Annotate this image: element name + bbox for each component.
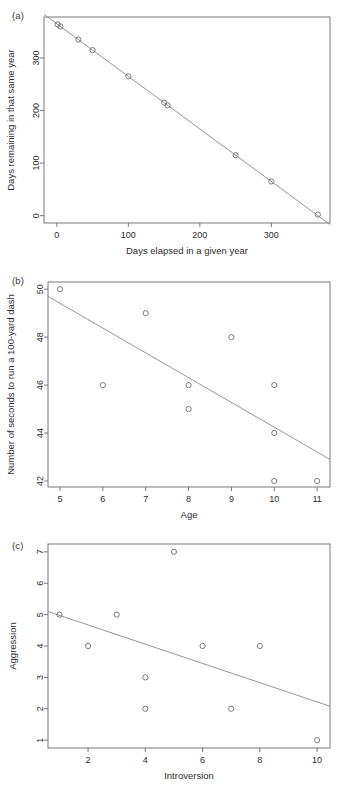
- x-tick-label: 8: [257, 755, 262, 765]
- y-tick-label: 5: [35, 612, 45, 617]
- y-tick-label: 48: [35, 332, 45, 342]
- x-tick-label: 8: [186, 494, 191, 504]
- y-tick-label: 7: [35, 549, 45, 554]
- data-point: [315, 478, 320, 483]
- data-point: [143, 706, 148, 711]
- panel-b-dash-times: (b) 5678910114244464850AgeNumber of seco…: [0, 265, 340, 530]
- y-tick-label: 44: [35, 428, 45, 438]
- scatter-plot-a: 01002003000100200300Days elapsed in a gi…: [0, 0, 340, 265]
- x-tick-label: 4: [143, 755, 148, 765]
- regression-line: [44, 14, 330, 224]
- panel-a-days-remaining: (a) 01002003000100200300Days elapsed in …: [0, 0, 340, 265]
- data-point: [272, 478, 277, 483]
- x-tick-label: 6: [100, 494, 105, 504]
- x-tick-label: 10: [312, 755, 322, 765]
- y-tick-label: 50: [35, 284, 45, 294]
- y-tick-label: 0: [31, 213, 41, 218]
- x-tick-label: 10: [269, 494, 279, 504]
- x-tick-label: 0: [54, 230, 59, 240]
- x-tick-label: 6: [200, 755, 205, 765]
- data-point: [257, 643, 262, 648]
- regression-line: [48, 296, 330, 459]
- x-tick-label: 300: [264, 230, 279, 240]
- x-tick-label: 11: [312, 494, 321, 504]
- data-point: [315, 738, 320, 743]
- data-point: [57, 287, 62, 292]
- data-point: [186, 406, 191, 411]
- x-tick-label: 100: [121, 230, 136, 240]
- data-point: [85, 643, 90, 648]
- data-point: [272, 382, 277, 387]
- x-tick-label: 2: [86, 755, 91, 765]
- x-axis-title: Age: [181, 509, 198, 520]
- data-point: [143, 311, 148, 316]
- data-point: [200, 643, 205, 648]
- y-axis-title: Days remaining in that same year: [5, 49, 16, 191]
- data-point: [272, 430, 277, 435]
- scatter-plot-c: 2468101234567IntroversionAggression: [0, 530, 340, 795]
- figure-three-scatterplots: (a) 01002003000100200300Days elapsed in …: [0, 0, 340, 795]
- x-tick-label: 9: [229, 494, 234, 504]
- y-tick-label: 1: [35, 738, 45, 743]
- y-tick-label: 100: [31, 156, 41, 171]
- scatter-plot-b: 5678910114244464850AgeNumber of seconds …: [0, 265, 340, 530]
- data-point: [229, 706, 234, 711]
- regression-line: [48, 611, 330, 706]
- y-axis-title: Number of seconds to run a 100-yard dash: [5, 294, 16, 475]
- y-tick-label: 200: [31, 103, 41, 118]
- y-tick-label: 3: [35, 675, 45, 680]
- y-tick-label: 2: [35, 706, 45, 711]
- x-axis-title: Days elapsed in a given year: [126, 245, 248, 256]
- x-tick-label: 200: [192, 230, 207, 240]
- data-point: [143, 675, 148, 680]
- y-axis-title: Aggression: [7, 622, 18, 670]
- data-point: [100, 382, 105, 387]
- y-tick-label: 6: [35, 581, 45, 586]
- x-tick-label: 7: [143, 494, 148, 504]
- y-tick-label: 46: [35, 380, 45, 390]
- y-tick-label: 300: [31, 50, 41, 65]
- data-point: [229, 335, 234, 340]
- y-tick-label: 42: [35, 476, 45, 486]
- data-point: [186, 382, 191, 387]
- data-point: [171, 549, 176, 554]
- x-tick-label: 5: [57, 494, 62, 504]
- x-axis-title: Introversion: [164, 770, 214, 781]
- data-point: [114, 612, 119, 617]
- panel-c-aggression: (c) 2468101234567IntroversionAggression: [0, 530, 340, 795]
- y-tick-label: 4: [35, 643, 45, 648]
